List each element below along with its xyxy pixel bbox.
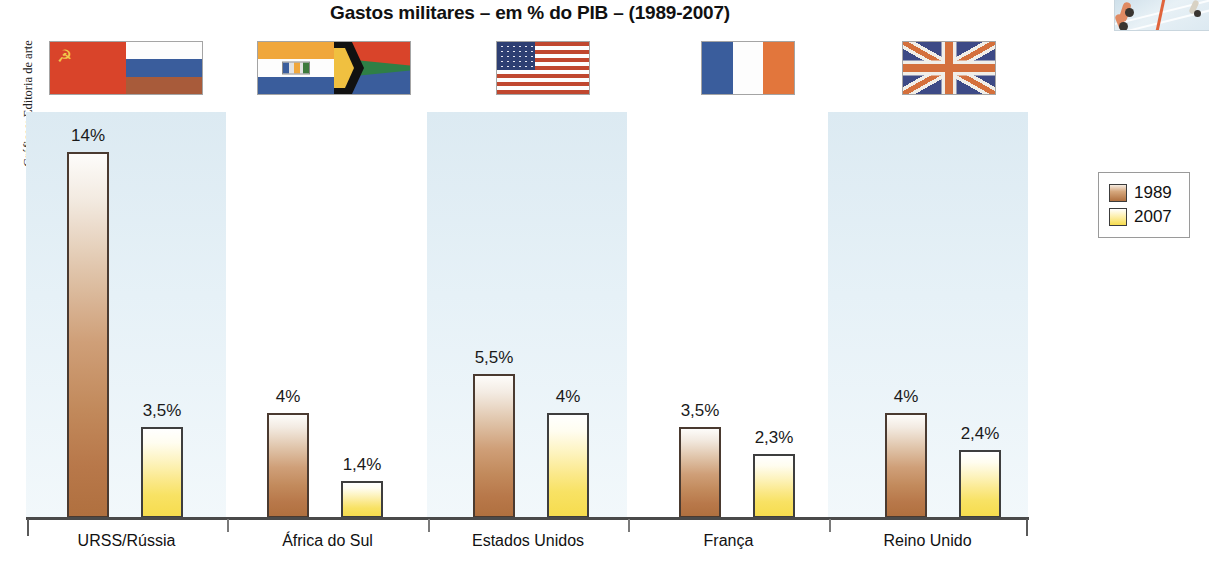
- usa-flag-icon: [497, 42, 589, 94]
- legend-swatch-2007: [1109, 208, 1127, 226]
- corner-photo: [1114, 0, 1209, 31]
- bar-africa-1989[interactable]: [267, 413, 309, 518]
- legend-item-1989[interactable]: 1989: [1109, 181, 1189, 205]
- legend-swatch-1989: [1109, 184, 1127, 202]
- axis-tick-5: [1026, 519, 1028, 536]
- axis-tick-3: [628, 519, 630, 532]
- usa-flag-canton: [497, 42, 535, 70]
- bar-label-franca-1989: 3,5%: [660, 401, 740, 421]
- group-panel-urss: [26, 112, 226, 518]
- bar-urss-2007[interactable]: [141, 427, 183, 518]
- bar-label-africa-1989: 4%: [250, 387, 326, 407]
- flag-pair-south-africa: [258, 42, 410, 94]
- bar-label-reino-2007: 2,4%: [940, 424, 1020, 444]
- bar-label-urss-1989: 14%: [50, 126, 126, 146]
- south-africa-old-emblem-icon: [282, 62, 310, 75]
- category-label-africa: África do Sul: [227, 532, 428, 550]
- bar-label-eua-2007: 4%: [530, 387, 606, 407]
- bar-franca-2007[interactable]: [753, 454, 795, 518]
- russia-flag-icon: [126, 42, 202, 94]
- chart-figure: Gastos militares – em % do PIB – (1989-2…: [0, 0, 1209, 564]
- bar-africa-2007[interactable]: [341, 481, 383, 518]
- bar-label-reino-1989: 4%: [868, 387, 944, 407]
- legend-label-1989: 1989: [1134, 183, 1172, 203]
- bar-reino-1989[interactable]: [885, 413, 927, 518]
- axis-tick-2: [428, 519, 430, 532]
- flag-pair-france: [702, 42, 794, 94]
- bar-franca-1989[interactable]: [679, 427, 721, 518]
- legend-label-2007: 2007: [1134, 207, 1172, 227]
- category-label-urss: URSS/Rússia: [26, 532, 227, 550]
- group-panel-eua: [427, 112, 627, 518]
- category-label-eua: Estados Unidos: [428, 532, 628, 550]
- flag-pair-urss-russia: ☭: [50, 42, 202, 94]
- bar-label-eua-1989: 5,5%: [453, 348, 535, 368]
- chart-legend: 1989 2007: [1098, 172, 1190, 238]
- bar-urss-1989[interactable]: [67, 152, 109, 518]
- bar-label-africa-2007: 1,4%: [324, 455, 400, 475]
- bar-label-franca-2007: 2,3%: [734, 428, 814, 448]
- ussr-flag-icon: ☭: [50, 42, 126, 94]
- category-label-reino: Reino Unido: [829, 532, 1026, 550]
- bar-eua-2007[interactable]: [547, 413, 589, 518]
- legend-item-2007[interactable]: 2007: [1109, 205, 1189, 229]
- axis-tick-4: [829, 519, 831, 532]
- flag-pair-usa: [497, 42, 589, 94]
- group-panel-franca: [627, 112, 828, 518]
- bar-eua-1989[interactable]: [473, 374, 515, 518]
- uk-flag-icon: [903, 42, 995, 94]
- bar-label-urss-2007: 3,5%: [124, 401, 200, 421]
- flag-pair-uk: [903, 42, 995, 94]
- france-flag-icon: [702, 42, 794, 94]
- south-africa-old-flag-icon: [258, 42, 334, 94]
- x-axis-line: [26, 517, 1029, 520]
- chart-title: Gastos militares – em % do PIB – (1989-2…: [0, 2, 1060, 24]
- axis-tick-1: [227, 519, 229, 532]
- south-africa-new-flag-icon: [334, 42, 410, 94]
- bar-reino-2007[interactable]: [959, 450, 1001, 518]
- hammer-sickle-icon: ☭: [57, 48, 74, 66]
- category-label-franca: França: [628, 532, 829, 550]
